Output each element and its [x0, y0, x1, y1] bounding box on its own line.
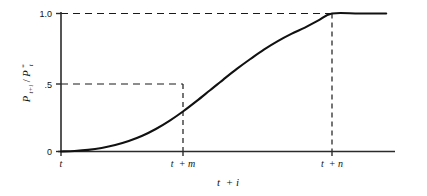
x-tick-label-tm: t + m [171, 158, 195, 169]
x-axis-title-t: t [217, 176, 221, 188]
x-tick-tm-extra: + m [179, 158, 195, 169]
y-axis-title: P t+i / P * t [17, 62, 35, 104]
adjustment-curve [61, 13, 386, 152]
y-axis-title-p1: P [21, 95, 32, 103]
x-tick-label-tn: t + n [321, 158, 343, 169]
y-tick-label-0: 0 [47, 147, 52, 157]
y-tick-label-10: 1.0 [39, 9, 52, 19]
chart-canvas: 1.0 .5 0 t t + m t + n t + i P t+i / P *… [0, 0, 427, 196]
y-axis-title-group: P t+i / P * t [17, 62, 35, 104]
y-tick-label-05: .5 [44, 80, 52, 90]
y-axis-title-sub1: t+i [27, 85, 35, 94]
y-axis-title-sub2: t [27, 63, 35, 66]
y-axis-title-p2: P [21, 70, 32, 78]
x-axis-title: t + i [217, 176, 239, 188]
axes [58, 12, 395, 152]
x-tick-label-t: t [60, 158, 63, 169]
x-tick-tn-extra: + n [329, 158, 343, 169]
y-axis-title-slash: / [21, 79, 32, 82]
x-tick-tn-t: t [321, 158, 324, 169]
x-axis-title-plus-i: + i [226, 176, 239, 188]
x-tick-tm-t: t [171, 158, 174, 169]
chart-figure: 1.0 .5 0 t t + m t + n t + i P t+i / P *… [0, 0, 427, 196]
